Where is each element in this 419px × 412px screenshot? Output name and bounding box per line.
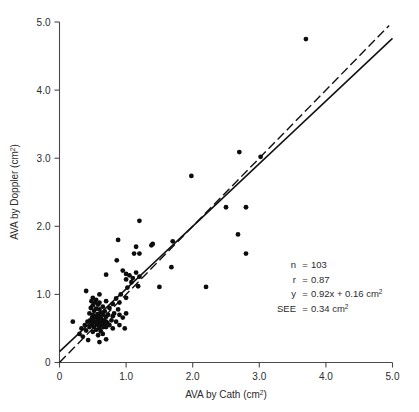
data-point xyxy=(130,276,135,281)
data-point xyxy=(116,307,121,312)
x-tick-label: 4.0 xyxy=(319,371,333,382)
stat-equals: = xyxy=(302,303,308,314)
data-point xyxy=(304,37,309,42)
data-point xyxy=(97,292,102,297)
data-point xyxy=(244,205,249,210)
data-point xyxy=(100,332,105,337)
data-point xyxy=(104,272,109,277)
data-point xyxy=(137,274,142,279)
data-point xyxy=(237,150,242,155)
stat-equals: = xyxy=(302,274,308,285)
data-point xyxy=(236,232,241,237)
data-point xyxy=(117,300,122,305)
data-point xyxy=(114,258,119,263)
data-point xyxy=(132,251,137,256)
plot-canvas: 01.02.03.04.05.0 01.02.03.04.05.0 AVA by… xyxy=(0,0,419,412)
data-point xyxy=(117,323,122,328)
data-point xyxy=(109,318,114,323)
stat-value: 0.87 xyxy=(311,274,330,285)
data-point xyxy=(122,326,127,331)
stat-equals: = xyxy=(302,288,308,299)
stat-label: r xyxy=(293,274,296,285)
stat-label: y xyxy=(291,288,296,299)
y-axis-title: AVA by Doppler (cm2) xyxy=(9,144,20,240)
data-point xyxy=(124,277,129,282)
data-point xyxy=(96,333,101,338)
stat-equals: = xyxy=(302,259,308,270)
statistics-annotation: n=103r=0.87y=0.92x + 0.16 cm2SEE=0.34 cm… xyxy=(277,259,383,314)
data-point xyxy=(110,326,115,331)
data-point xyxy=(134,270,139,275)
y-tick-label: 5.0 xyxy=(37,17,51,28)
data-point xyxy=(104,337,109,342)
x-axis-ticks: 01.02.03.04.05.0 xyxy=(57,363,400,382)
data-point xyxy=(118,292,123,297)
y-tick-label: 3.0 xyxy=(37,153,51,164)
data-point xyxy=(134,244,139,249)
data-point xyxy=(137,218,142,223)
data-point xyxy=(124,311,129,316)
data-point xyxy=(150,242,155,247)
stat-value: 0.34 cm2 xyxy=(311,303,349,314)
data-point xyxy=(204,285,209,290)
y-tick-label: 2.0 xyxy=(37,221,51,232)
stat-label: n xyxy=(291,259,296,270)
x-tick-label: 5.0 xyxy=(386,371,400,382)
stat-label: SEE xyxy=(277,303,296,314)
data-point xyxy=(100,304,105,309)
data-point xyxy=(120,315,125,320)
data-point xyxy=(97,340,102,345)
data-point xyxy=(84,289,89,294)
data-point xyxy=(86,338,91,343)
data-point xyxy=(189,174,194,179)
y-axis-ticks: 01.02.03.04.05.0 xyxy=(37,17,60,369)
y-tick-label: 0 xyxy=(45,357,51,368)
data-point xyxy=(107,306,112,311)
data-point xyxy=(110,302,115,307)
data-point xyxy=(170,239,175,244)
data-point xyxy=(244,251,249,256)
x-axis-title: AVA by Cath (cm2) xyxy=(185,389,267,400)
data-point xyxy=(224,205,229,210)
data-point xyxy=(125,285,130,290)
data-point xyxy=(136,284,141,289)
data-point xyxy=(157,285,162,290)
data-point xyxy=(114,296,119,301)
data-point xyxy=(70,319,75,324)
x-tick-label: 1.0 xyxy=(119,371,133,382)
x-tick-label: 2.0 xyxy=(186,371,200,382)
data-point xyxy=(104,299,109,304)
data-point xyxy=(80,334,85,339)
data-point xyxy=(169,265,174,270)
data-point xyxy=(116,238,121,243)
y-tick-label: 4.0 xyxy=(37,85,51,96)
data-point xyxy=(137,251,142,256)
data-point xyxy=(258,154,263,159)
data-point xyxy=(129,280,134,285)
data-point xyxy=(97,300,102,305)
data-points xyxy=(70,37,308,345)
x-tick-label: 0 xyxy=(57,371,63,382)
stat-value: 103 xyxy=(311,259,327,270)
data-point xyxy=(106,312,111,317)
data-point xyxy=(112,311,117,316)
stat-value: 0.92x + 0.16 cm2 xyxy=(311,288,383,299)
data-point xyxy=(124,295,129,300)
scatter-figure: 01.02.03.04.05.0 01.02.03.04.05.0 AVA by… xyxy=(0,0,419,412)
y-tick-label: 1.0 xyxy=(37,289,51,300)
x-tick-label: 3.0 xyxy=(252,371,266,382)
